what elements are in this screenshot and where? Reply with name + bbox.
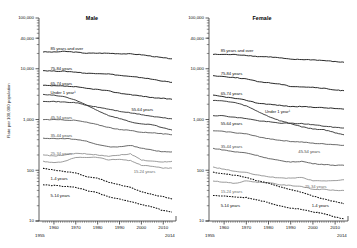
series-label: Under 1 year¹	[51, 90, 76, 95]
series-label: 55-64 years	[221, 121, 243, 126]
series-line	[213, 76, 344, 91]
x-tick-label: 1980	[258, 225, 280, 230]
series-label: 15-24 years	[134, 169, 156, 174]
series-line	[43, 157, 172, 168]
y-tick-label: 100,000	[8, 15, 34, 20]
x-tick-label: 2000	[130, 225, 152, 230]
series-label: 85 years and over	[221, 48, 254, 53]
series-label: 15-24 years	[221, 189, 243, 194]
x-tick-label: 1990	[109, 225, 131, 230]
series-label: 25-34 years	[305, 184, 327, 189]
series-line	[43, 185, 172, 212]
x-tick-label: 1980	[87, 225, 109, 230]
panel-female: Female 85 years and over75-84 years65-74…	[178, 0, 357, 248]
series-line	[43, 51, 172, 59]
series-label: 75-84 years	[51, 66, 73, 71]
series-label: 85 years and over	[51, 46, 84, 51]
series-line	[213, 148, 344, 165]
x-axis-end-label: 2014	[337, 233, 357, 238]
x-tick-label: 1960	[213, 225, 235, 230]
x-tick-label: 2010	[152, 225, 174, 230]
y-tick-label: 10	[8, 218, 34, 223]
series-label: 35-44 years	[221, 144, 243, 149]
x-axis-start-label: 1955	[205, 233, 227, 238]
x-axis-start-label: 1955	[35, 233, 57, 238]
y-tick-label: 100,000	[178, 15, 204, 20]
series-label: 55-64 years	[131, 107, 153, 112]
y-tick-label: 100	[178, 168, 204, 173]
series-label: 45-54 years	[298, 149, 320, 154]
y-tick-label: 1,000	[8, 117, 34, 122]
x-tick-label: 1970	[235, 225, 257, 230]
series-label: 1-4 years	[51, 176, 68, 181]
y-tick-label: 10,000	[8, 66, 34, 71]
y-tick-label: 100	[8, 168, 34, 173]
x-tick-label: 2000	[302, 225, 324, 230]
series-label: 35-44 years	[51, 133, 73, 138]
y-tick-label: 40,000	[178, 36, 204, 41]
series-label: 45-54 years	[51, 115, 73, 120]
series-line	[43, 94, 172, 130]
panel-female-plot	[178, 0, 357, 248]
series-label: 75-84 years	[221, 71, 243, 76]
series-label: 65-74 years	[51, 81, 73, 86]
x-tick-label: 2010	[324, 225, 346, 230]
series-label: 5-14 years	[51, 193, 70, 198]
series-label: 1-4 years	[312, 203, 329, 208]
x-tick-label: 1990	[280, 225, 302, 230]
y-tick-label: 10,000	[178, 66, 204, 71]
y-tick-label: 1,000	[178, 117, 204, 122]
series-line	[213, 131, 344, 146]
x-tick-label: 1960	[43, 225, 65, 230]
series-line	[213, 54, 344, 62]
series-line	[213, 167, 344, 181]
series-label: Under 1 year¹	[265, 109, 290, 114]
x-tick-label: 1970	[65, 225, 87, 230]
series-label: 5-14 years	[221, 203, 240, 208]
panel-male: Male 85 years and over75-84 years65-74 y…	[0, 0, 180, 248]
y-tick-label: 40,000	[8, 36, 34, 41]
series-label: 65-74 years	[221, 91, 243, 96]
chart-figure: Rate per 100,000 population Male 85 year…	[0, 0, 357, 248]
series-label: 25-34 years	[51, 151, 73, 156]
y-tick-label: 10	[178, 218, 204, 223]
